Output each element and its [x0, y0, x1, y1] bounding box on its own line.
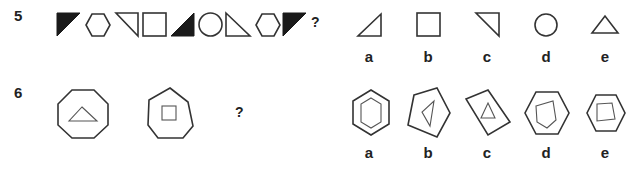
hexagon-icon	[256, 14, 280, 36]
heptagon-icon	[148, 88, 193, 138]
q5-options	[358, 13, 618, 36]
square-icon	[143, 13, 166, 36]
option-e-triangle-icon[interactable]	[592, 16, 618, 33]
filled-triangle-icon	[283, 13, 306, 36]
q6-option-d-label[interactable]: d	[536, 144, 556, 161]
q6-sequence	[58, 88, 193, 138]
option-b-square-icon[interactable]	[417, 13, 440, 36]
option-a-figure[interactable]	[353, 90, 389, 135]
inner-triangle-icon	[69, 107, 97, 121]
option-b-figure[interactable]	[408, 88, 450, 137]
q5-option-c-label[interactable]: c	[477, 48, 497, 65]
q6-options	[353, 88, 625, 137]
option-d-circle-icon[interactable]	[535, 14, 557, 36]
triangle-icon	[116, 13, 138, 36]
inner-square-icon	[162, 106, 176, 120]
q5-option-e-label[interactable]: e	[595, 48, 615, 65]
q6-option-a-label[interactable]: a	[359, 144, 379, 161]
octagon-icon	[58, 90, 108, 138]
q5-option-b-label[interactable]: b	[418, 48, 438, 65]
option-e-figure[interactable]	[587, 95, 625, 131]
q5-option-a-label[interactable]: a	[359, 48, 379, 65]
hexagon-icon	[86, 14, 110, 36]
q5-option-d-label[interactable]: d	[536, 48, 556, 65]
option-c-triangle-icon[interactable]	[476, 13, 499, 36]
option-a-triangle-icon[interactable]	[358, 14, 381, 36]
q6-option-b-label[interactable]: b	[418, 144, 438, 161]
filled-triangle-icon	[57, 13, 80, 36]
q5-sequence	[57, 13, 306, 36]
triangle-icon	[226, 13, 250, 36]
q6-option-c-label[interactable]: c	[477, 144, 497, 161]
option-d-figure[interactable]	[525, 92, 569, 134]
option-c-figure[interactable]	[466, 90, 510, 135]
circle-icon	[199, 13, 222, 36]
filled-triangle-icon	[171, 13, 194, 36]
q6-option-e-label[interactable]: e	[595, 144, 615, 161]
